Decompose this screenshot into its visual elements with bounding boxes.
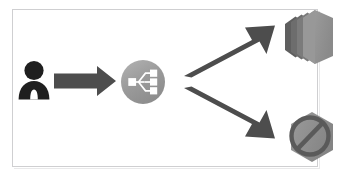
load-balancer-icon [120, 59, 166, 105]
arrow-loadbalancer-to-instances [184, 26, 275, 78]
node-user: User [17, 58, 51, 100]
instance-stack-icon [281, 7, 337, 67]
node-stopped-instance: Unavailable instance [285, 108, 339, 166]
node-instances: Running instances [281, 7, 337, 67]
arrow-loadbalancer-to-stopped [184, 87, 275, 139]
diagram-canvas: Load balancer request distribution to in… [0, 0, 346, 179]
prohibited-instance-icon [285, 108, 339, 166]
arrow-user-to-loadbalancer [54, 66, 116, 96]
node-loadbalancer: Load balancer [120, 59, 166, 105]
user-icon [17, 58, 51, 100]
